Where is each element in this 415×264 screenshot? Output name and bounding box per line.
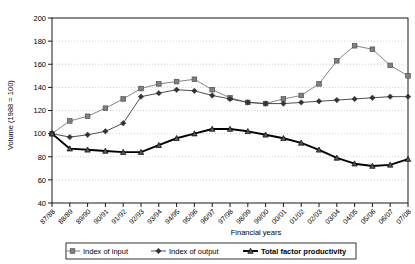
svg-text:200: 200 xyxy=(33,14,46,23)
svg-text:80: 80 xyxy=(38,153,46,162)
line-chart: 406080100120140160180200 Volume (1988 = … xyxy=(0,0,415,264)
svg-text:160: 160 xyxy=(33,60,46,69)
y-axis-title: Volume (1988 = 100) xyxy=(6,80,15,150)
svg-text:140: 140 xyxy=(33,83,46,92)
chart-container: 406080100120140160180200 Volume (1988 = … xyxy=(0,0,415,264)
legend-label: Total factor productivity xyxy=(261,247,347,256)
legend-label: Index of input xyxy=(83,247,129,256)
svg-text:40: 40 xyxy=(38,199,46,208)
legend-label: Index of output xyxy=(169,247,220,256)
svg-text:60: 60 xyxy=(38,176,46,185)
x-axis-title: Financial years xyxy=(231,228,282,237)
svg-text:180: 180 xyxy=(33,37,46,46)
chart-legend: Index of inputIndex of outputTotal facto… xyxy=(65,243,356,259)
x-axis-ticks xyxy=(52,203,408,207)
svg-text:100: 100 xyxy=(33,129,46,138)
svg-text:120: 120 xyxy=(33,106,46,115)
